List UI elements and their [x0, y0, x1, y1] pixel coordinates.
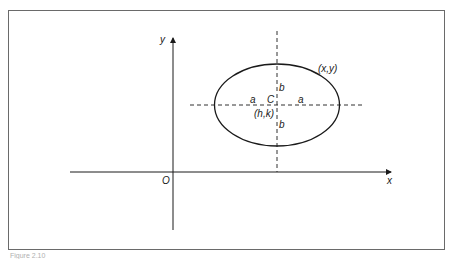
figure-caption: Figure 2.10: [10, 252, 45, 259]
semi-major-right-label: a: [298, 94, 304, 105]
center-label: C: [267, 94, 275, 105]
semi-major-left-label: a: [250, 94, 256, 105]
semi-minor-bottom-label: b: [279, 119, 285, 130]
semi-minor-top-label: b: [279, 82, 285, 93]
point-label: (x,y): [318, 63, 337, 74]
y-axis-label: y: [159, 34, 166, 45]
origin-label: O: [162, 175, 170, 186]
center-coords-label: (h,k): [254, 108, 274, 119]
x-axis-label: x: [386, 175, 393, 186]
